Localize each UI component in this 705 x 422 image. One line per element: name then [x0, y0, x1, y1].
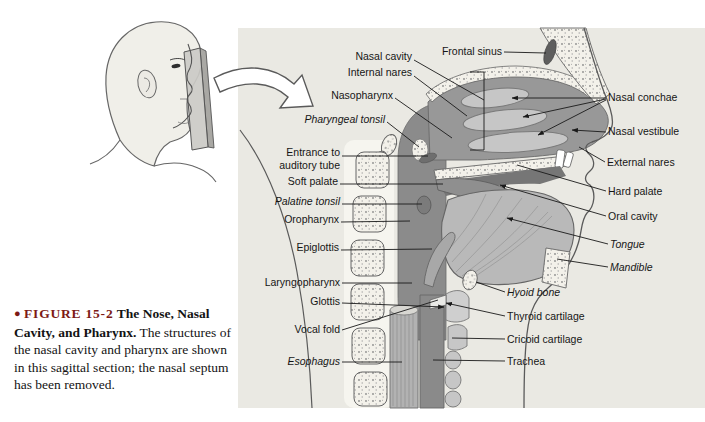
trachea-shape — [420, 295, 444, 408]
thyroid-cartilage-shape — [446, 291, 469, 323]
tracheal-rings — [445, 351, 461, 407]
palatine-tonsil-shape — [417, 196, 431, 214]
mandible-shape — [542, 248, 570, 288]
figure-number: FIGURE 15-2 — [24, 306, 113, 321]
sagittal-plane — [184, 48, 214, 150]
figure-bullet-icon: ● — [14, 307, 21, 319]
cricoid-cartilage-shape — [448, 325, 467, 350]
textbook-figure: Nasal cavityInternal naresNasopharynxPha… — [0, 0, 705, 422]
figure-caption: ● FIGURE 15-2 The Nose, Nasal Cavity, an… — [14, 305, 238, 394]
esophagus-shape — [390, 305, 418, 408]
